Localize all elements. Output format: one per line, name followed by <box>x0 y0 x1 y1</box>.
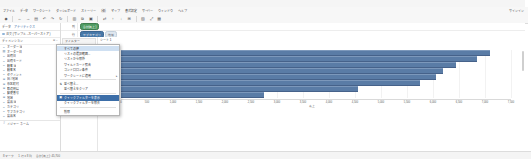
x-tick-label: 5,500 <box>404 101 411 104</box>
menu-marker-icon <box>59 74 62 77</box>
menu-item-analysis[interactable]: 分析 <box>101 9 107 13</box>
menu-item-remove-quick-filter[interactable]: クイックフィルターを除去 <box>57 101 119 106</box>
sort-descending-icon[interactable]: ↓ <box>118 16 124 22</box>
menu-item-label: 並べ替え... <box>64 82 78 86</box>
menu-item-apply-to-worksheets[interactable]: ワークシートに適用▸ <box>57 73 119 78</box>
back-icon[interactable]: ← <box>17 16 23 22</box>
menu-item-label: 並べ替えをクリア <box>64 87 88 91</box>
x-tick-label: 4,500 <box>352 101 359 104</box>
duplicate-sheet-icon[interactable]: ⧉ <box>80 16 86 22</box>
menu-item-server[interactable]: サーバー <box>142 9 154 13</box>
field-label: 国 / 地域 <box>7 77 18 81</box>
toolbar-separator <box>97 16 98 22</box>
sign-in-link[interactable]: サインイン <box>509 9 524 13</box>
menu-item-worksheet[interactable]: ワークシート <box>33 9 50 13</box>
bar-series[interactable] <box>121 50 511 98</box>
x-tick-label: 1,500 <box>196 101 203 104</box>
sort-ascending-icon[interactable]: ↑ <box>110 16 116 22</box>
x-tick-label: 1,000 <box>170 101 177 104</box>
new-worksheet-icon[interactable]: ▥ <box>71 16 77 22</box>
menu-item-format[interactable]: 書式設定 <box>125 9 137 13</box>
tab-analytics[interactable]: アナリティクス <box>14 25 35 29</box>
bar-row[interactable] <box>121 50 511 56</box>
x-tick-label: 0 <box>120 101 121 104</box>
clear-sheet-icon[interactable]: ▣ <box>88 16 94 22</box>
columns-shelf-label: 列 <box>61 25 77 29</box>
globe-icon: ⊕ <box>3 87 6 90</box>
filter-context-menu[interactable]: すべての値 リストの選択範囲... リストから除外 ワイルドカード照合 コンドロ… <box>56 44 120 116</box>
datasource-label: 注文 (サンプル - スーパーストア) <box>6 32 51 36</box>
abc-icon: ≡ <box>3 115 6 118</box>
highlight-icon[interactable]: ▨ <box>140 16 146 22</box>
columns-shelf[interactable]: 合計(売上) <box>77 23 525 30</box>
field-label: 顧客名 <box>7 68 16 72</box>
worksheet-view: シート 1 サブカテゴリ 椅子 電話機 画材 本棚 保管箱 机 コピー機 アプラ… <box>98 37 525 152</box>
x-axis-title: 売上 <box>309 104 315 108</box>
menu-item-dashboard[interactable]: ダッシュボード <box>56 9 76 13</box>
menu-separator <box>60 93 116 94</box>
bar-row[interactable] <box>121 56 511 62</box>
x-tick-label: 7,500 <box>508 101 515 104</box>
list-item[interactable]: ≡製品名 <box>0 114 60 119</box>
show-me-icon[interactable]: ▦ <box>156 16 162 22</box>
group-icon[interactable]: ⊞ <box>126 16 132 22</box>
bar-row[interactable] <box>121 62 511 68</box>
forward-icon[interactable]: → <box>25 16 31 22</box>
menu-item-story[interactable]: ストーリー <box>81 9 96 13</box>
menu-item-map[interactable]: マップ <box>111 9 120 13</box>
menu-marker-icon <box>59 102 62 105</box>
redo-icon[interactable]: ↷ <box>50 16 56 22</box>
abc-icon: ≡ <box>3 55 6 58</box>
menu-marker-icon <box>59 63 62 66</box>
save-icon[interactable]: ▤ <box>33 16 39 22</box>
x-tick-label: 3,500 <box>300 101 307 104</box>
toolbar-separator <box>12 16 13 22</box>
field-label: 出荷日 <box>7 54 16 58</box>
menu-item-window[interactable]: ウィンドウ <box>158 9 173 13</box>
bar[interactable] <box>121 92 264 98</box>
bar[interactable] <box>121 74 436 80</box>
list-item[interactable]: #メジャー ネーム <box>0 122 60 127</box>
menu-marker-icon <box>59 47 62 50</box>
swap-axes-icon[interactable]: ⇄ <box>102 16 108 22</box>
bar[interactable] <box>121 50 490 56</box>
field-label: 地域 <box>7 96 13 100</box>
data-source-item[interactable]: 注文 (サンプル - スーパーストア) <box>0 31 60 38</box>
fit-icon[interactable]: ⤢ <box>148 16 154 22</box>
menu-item-label: 削除 <box>64 110 70 114</box>
field-label: 出荷モード <box>7 59 22 63</box>
x-tick-label: 2,000 <box>222 101 229 104</box>
bar[interactable] <box>121 62 456 68</box>
dimensions-menu-icon[interactable]: ⊞ ⌄ <box>53 39 58 42</box>
toolbar-separator <box>67 16 68 22</box>
x-tick-label: 500 <box>145 101 149 104</box>
tableau-logo-icon[interactable]: ◆ <box>3 16 9 22</box>
vertical-scrollbar[interactable] <box>522 51 524 71</box>
x-tick-label: 3,000 <box>274 101 281 104</box>
refresh-icon[interactable]: ↻ <box>58 16 64 22</box>
bar[interactable] <box>121 68 443 74</box>
bar-row[interactable] <box>121 92 511 98</box>
menu-item-clear-sort[interactable]: 並べ替えをクリア <box>57 87 119 92</box>
checkbox-checked-icon: ▣ <box>59 96 62 99</box>
menu-item-help[interactable]: ヘルプ <box>178 9 187 13</box>
bar[interactable] <box>121 80 420 86</box>
rows-shelf-label: 行 <box>61 33 77 37</box>
bar-chart[interactable]: サブカテゴリ 椅子 電話機 画材 本棚 保管箱 机 コピー機 アプライアンス <box>98 43 525 152</box>
menu-item-delete[interactable]: 削除 <box>57 109 119 114</box>
field-label: メジャー ネーム <box>7 122 29 126</box>
abc-icon: ≡ <box>3 46 6 49</box>
undo-icon[interactable]: ↶ <box>41 16 47 22</box>
menu-item-label: ワイルドカード照合 <box>64 63 91 67</box>
pill-sum-sales[interactable]: 合計(売上) <box>80 23 100 30</box>
menu-item-label: クイックフィルターを除去 <box>64 101 100 105</box>
dimension-list: ≡オーダー Id ▤オーダー日 ≡出荷日 ≡出荷モード ≡顧客 Id ≡顧客名 … <box>0 45 60 127</box>
bar[interactable] <box>121 56 477 62</box>
status-sum: 合計(売上): 45,700 <box>36 154 60 158</box>
bar[interactable] <box>121 86 358 92</box>
x-tick-label: 7,000 <box>482 101 489 104</box>
menu-item-data[interactable]: データ <box>20 9 29 13</box>
tab-data[interactable]: データ <box>2 25 11 29</box>
status-marks: 8 マーク <box>3 154 14 158</box>
menu-item-file[interactable]: ファイル <box>3 9 15 13</box>
